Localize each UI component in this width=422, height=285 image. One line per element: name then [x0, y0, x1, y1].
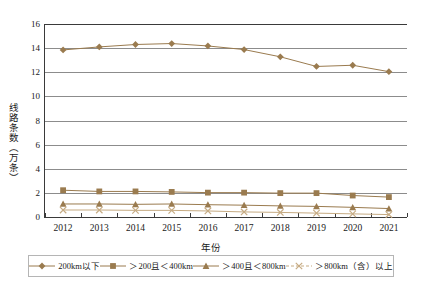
y-tick-label: 12 [31, 68, 40, 77]
y-tick-label: 14 [31, 44, 40, 53]
cross-icon [286, 261, 312, 271]
diamond-marker [313, 63, 320, 70]
x-tick-label: 2018 [271, 223, 290, 233]
series-line [63, 204, 389, 209]
y-axis-title: 线路条数（万条） [6, 103, 19, 183]
legend-label: ＞400且＜800km [221, 262, 285, 271]
diamond-marker [132, 41, 139, 48]
y-tick-label: 8 [36, 116, 41, 125]
series-4 [60, 207, 392, 218]
legend-label: 200km以下 [57, 262, 100, 271]
series-layer [45, 24, 407, 217]
x-tick-label: 2014 [126, 223, 145, 233]
square-marker [277, 190, 283, 196]
square-marker [350, 193, 356, 199]
square-marker [169, 189, 175, 195]
diamond-icon [29, 261, 55, 271]
diamond-marker [96, 44, 103, 51]
x-tick-mark [407, 213, 408, 217]
legend-label: ＞200且＜400km [128, 262, 192, 271]
y-tick-label: 4 [36, 164, 41, 173]
square-marker [60, 187, 66, 193]
triangle-icon [193, 261, 219, 271]
x-axis-title: 年份 [0, 240, 422, 254]
series-1 [60, 40, 393, 75]
y-tick-label: 10 [31, 92, 40, 101]
x-tick-label: 2017 [235, 223, 254, 233]
line-chart: 线路条数（万条） 0246810121416 20122013201420152… [0, 0, 422, 285]
series-line [63, 44, 389, 72]
square-icon [100, 261, 126, 271]
x-tick-label: 2015 [162, 223, 181, 233]
square-marker [386, 194, 392, 200]
plot-area: 0246810121416 20122013201420152016201720… [44, 24, 407, 218]
legend-item-3[interactable]: ＞400且＜800km [193, 261, 285, 271]
square-marker [133, 189, 139, 195]
x-tick-label: 2019 [307, 223, 326, 233]
y-tick-label: 2 [36, 188, 41, 197]
y-tick-label: 0 [36, 213, 41, 222]
legend-item-2[interactable]: ＞200且＜400km [100, 261, 192, 271]
x-tick-label: 2012 [54, 223, 73, 233]
diamond-marker [277, 53, 284, 60]
y-tick-label: 16 [31, 20, 40, 29]
legend-label: ＞800km（含）以上 [314, 262, 393, 271]
chart-legend: 200km以下＞200且＜400km＞400且＜800km＞800km（含）以上 [28, 255, 394, 277]
y-tick-label: 6 [36, 140, 41, 149]
x-tick-label: 2013 [90, 223, 109, 233]
square-marker [314, 190, 320, 196]
diamond-marker [205, 43, 212, 50]
x-tick-label: 2020 [343, 223, 362, 233]
legend-item-1[interactable]: 200km以下 [29, 261, 100, 271]
diamond-marker [39, 263, 46, 270]
x-tick-label: 2016 [198, 223, 217, 233]
square-marker [205, 190, 211, 196]
square-marker [110, 263, 116, 269]
series-2 [60, 187, 392, 200]
legend-item-4[interactable]: ＞800km（含）以上 [286, 261, 393, 271]
series-line [63, 190, 389, 197]
diamond-marker [168, 40, 175, 47]
diamond-marker [60, 47, 67, 54]
diamond-marker [349, 62, 356, 69]
diamond-marker [386, 68, 393, 75]
series-line [63, 210, 389, 215]
square-marker [96, 189, 102, 195]
diamond-marker [241, 46, 248, 53]
square-marker [241, 190, 247, 196]
x-tick-label: 2021 [379, 223, 398, 233]
